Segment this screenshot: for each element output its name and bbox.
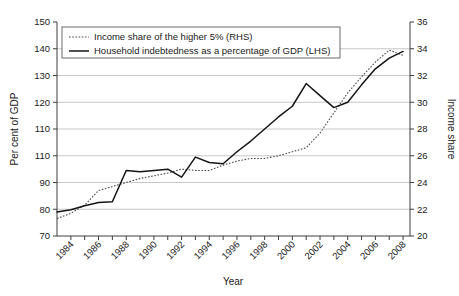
x-axis-ticks: 1984198619881990199219941996199820002002…: [53, 236, 408, 261]
x-tick-label: 1990: [136, 239, 159, 262]
y-tick-label: 110: [35, 123, 50, 134]
y2-tick-label: 28: [417, 123, 428, 134]
x-tick-label: 2000: [275, 239, 298, 262]
y-axis-ticks: 708090110110120130140150: [34, 16, 57, 241]
x-tick-label: 1984: [53, 239, 76, 262]
line-chart: 708090110110120130140150 202224262830323…: [0, 0, 459, 296]
y-tick-label: 70: [39, 230, 50, 241]
gridlines: [57, 49, 410, 210]
x-tick-label: 2008: [385, 239, 408, 262]
chart-figure: 708090110110120130140150 202224262830323…: [0, 0, 459, 296]
chart-legend: Income share of the higher 5% (RHS)House…: [62, 27, 340, 58]
y2-tick-label: 26: [417, 150, 428, 161]
y2-tick-label: 20: [417, 230, 428, 241]
legend-label: Income share of the higher 5% (RHS): [94, 31, 252, 42]
x-tick-label: 1986: [81, 239, 104, 262]
x-tick-label: 2004: [330, 239, 353, 262]
y-tick-label: 130: [34, 70, 50, 81]
y2-tick-label: 32: [417, 70, 428, 81]
y2-axis-ticks: 202224262830323436: [410, 16, 428, 241]
x-tick-label: 2002: [302, 239, 325, 262]
y2-tick-label: 30: [417, 97, 428, 108]
x-axis-title: Year: [223, 276, 244, 287]
y2-tick-label: 36: [417, 16, 428, 27]
y2-tick-label: 34: [417, 43, 428, 54]
y-tick-label: 80: [39, 204, 50, 215]
x-tick-label: 1992: [164, 239, 187, 262]
y-tick-label: 140: [34, 43, 50, 54]
x-tick-label: 2006: [358, 239, 381, 262]
x-tick-label: 1988: [108, 239, 131, 262]
y-tick-label: 90: [39, 177, 50, 188]
y-tick-label: 120: [34, 97, 50, 108]
y2-tick-label: 24: [417, 177, 428, 188]
x-tick-label: 1994: [191, 239, 214, 262]
y-axis-title: Per cent of GDP: [9, 92, 20, 165]
y-tick-label: 150: [34, 16, 50, 27]
legend-label: Household indebtedness as a percentage o…: [94, 45, 330, 56]
y-tick-label: 110: [35, 150, 50, 161]
y2-tick-label: 22: [417, 204, 428, 215]
x-tick-label: 1998: [247, 239, 270, 262]
x-tick-label: 1996: [219, 239, 242, 262]
y2-axis-title: Income share: [446, 99, 457, 160]
